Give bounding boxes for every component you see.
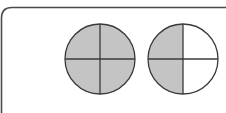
circle-2-half	[148, 24, 218, 94]
fraction-diagram	[0, 0, 226, 113]
circle-1-whole	[65, 24, 135, 94]
